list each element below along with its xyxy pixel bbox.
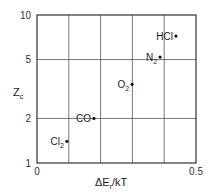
y-tick-label: 5 — [25, 54, 31, 65]
point-label-o2: O2 — [117, 79, 129, 92]
x-axis-label-main: ΔE — [95, 176, 110, 188]
y-tick-label: 2 — [25, 113, 31, 124]
data-point-co — [92, 117, 95, 120]
data-point-o2 — [130, 83, 133, 86]
point-label-co: CO — [76, 113, 91, 124]
data-points: HClN2O2COCl2 — [51, 31, 178, 149]
point-label-cl2: Cl2 — [51, 136, 64, 149]
y-axis-label-sub: c — [20, 93, 24, 100]
data-point-cl2 — [65, 140, 68, 143]
x-tick-label: 0 — [34, 166, 40, 177]
scatter-chart: 12510 00.5 HClN2O2COCl2 Zc ΔEr/kT — [0, 0, 208, 194]
y-axis-label: Zc — [13, 86, 24, 100]
y-tick-label: 10 — [20, 10, 32, 21]
x-axis-label: ΔEr/kT — [95, 176, 128, 190]
y-tick-label: 1 — [25, 158, 31, 169]
x-tick-label: 0.5 — [189, 166, 203, 177]
data-point-hcl — [174, 35, 177, 38]
y-tick-labels: 12510 — [20, 10, 32, 169]
x-axis-label-tail: /kT — [112, 176, 128, 188]
data-point-n2 — [158, 55, 161, 58]
point-label-hcl: HCl — [156, 31, 173, 42]
point-label-n2: N2 — [146, 52, 157, 65]
